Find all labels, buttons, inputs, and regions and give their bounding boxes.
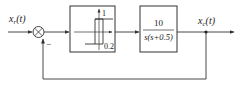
output-signal: xc(t) [177,15,234,34]
relay-amplitude-label: 1 [102,9,106,18]
plant-denominator: s(s+0.5) [144,32,173,42]
block-diagram: xr(t) − 1 0.2 10 s(s+0.5) xc(t) [0,0,244,91]
input-label: xr(t) [8,13,26,26]
nonlinear-block: 1 0.2 [70,6,115,52]
input-signal: xr(t) [8,13,32,32]
plant-numerator: 10 [154,18,164,28]
output-label: xc(t) [197,15,216,28]
feedback-sign: − [46,39,51,49]
feedback-path [43,32,206,79]
hysteresis-width-label: 0.2 [104,42,114,51]
summing-junction: − [33,27,51,50]
plant-block: 10 s(s+0.5) [140,6,177,52]
